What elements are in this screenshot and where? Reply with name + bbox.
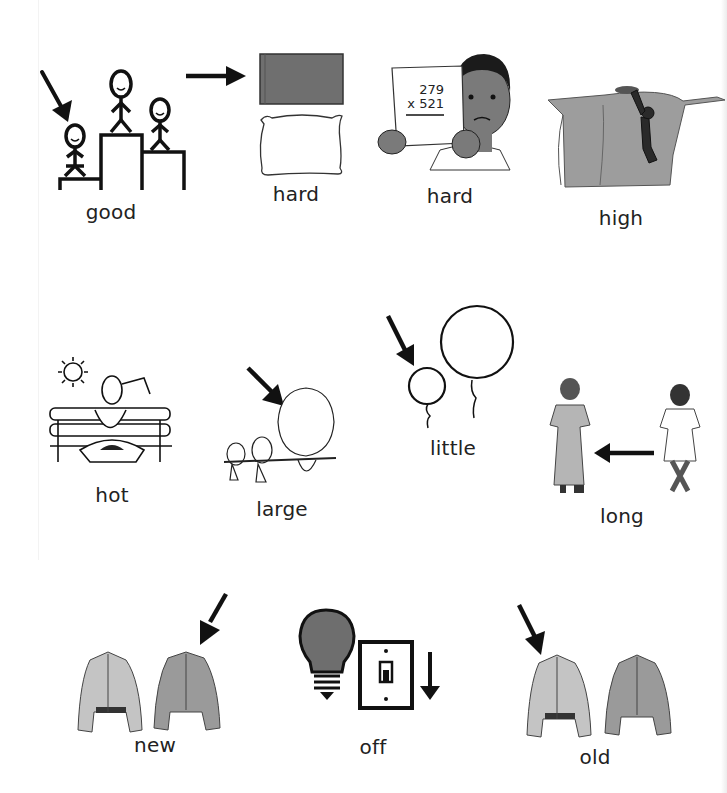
card-good: good: [0, 0, 200, 240]
card-hot: hot: [40, 350, 190, 510]
math-problem-bottom: x 521: [404, 96, 444, 111]
board-and-pillow-arrow-icon: [180, 40, 360, 220]
card-label: off: [360, 735, 387, 759]
card-label: good: [86, 200, 137, 224]
card-new: new: [70, 590, 240, 760]
card-high: high: [545, 75, 725, 235]
card-label: hard: [427, 184, 473, 208]
card-label: hot: [95, 483, 128, 507]
card-label: old: [579, 745, 610, 769]
card-label: new: [134, 733, 176, 757]
card-label: long: [600, 504, 644, 528]
card-little: little: [380, 300, 520, 470]
math-problem-top: 279: [414, 82, 444, 97]
card-large: large: [220, 360, 340, 530]
card-hard-pillow: hard: [180, 40, 360, 220]
card-label: large: [256, 497, 308, 521]
card-hard-math: 279 x 521 hard: [370, 40, 520, 220]
card-label: hard: [273, 182, 319, 206]
card-label: high: [599, 206, 643, 230]
card-old: old: [515, 595, 690, 775]
card-off: off: [290, 600, 450, 770]
card-long: long: [550, 375, 720, 535]
card-label: little: [430, 436, 476, 460]
